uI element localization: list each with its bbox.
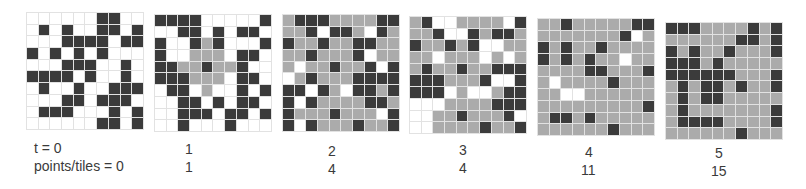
empty-cell <box>433 99 444 110</box>
tile-cell <box>760 46 771 57</box>
tile-cell <box>202 50 213 61</box>
tile-cell <box>422 52 433 63</box>
tile-cell <box>736 105 747 116</box>
point-cell <box>365 73 376 84</box>
point-cell <box>422 75 433 86</box>
tile-cell <box>585 42 596 53</box>
point-cell <box>178 85 189 96</box>
empty-cell <box>27 118 38 129</box>
point-cell <box>97 13 108 24</box>
tile-cell <box>643 89 654 100</box>
tile-cell <box>538 31 549 42</box>
empty-cell <box>260 27 271 38</box>
point-cell <box>515 64 526 75</box>
point-cell <box>504 64 515 75</box>
point-cell <box>132 118 143 129</box>
tile-cell <box>724 23 735 34</box>
tile-cell <box>678 128 689 139</box>
tile-grid-0 <box>26 12 144 130</box>
empty-cell <box>260 120 271 131</box>
tile-cell <box>573 66 584 77</box>
empty-cell <box>492 40 503 51</box>
tile-cell <box>596 113 607 124</box>
point-cell <box>202 109 213 120</box>
point-cell <box>713 117 724 128</box>
point-cell <box>377 97 388 108</box>
empty-cell <box>109 36 120 47</box>
tile-cell <box>620 77 631 88</box>
empty-cell <box>178 50 189 61</box>
point-cell <box>167 73 178 84</box>
point-cell <box>249 50 260 61</box>
tile-cell <box>538 77 549 88</box>
point-cell <box>678 23 689 34</box>
tile-cell <box>701 128 712 139</box>
tile-cell <box>365 109 376 120</box>
tile-cell <box>480 111 491 122</box>
point-cell <box>515 87 526 98</box>
empty-cell <box>167 120 178 131</box>
point-cell <box>713 58 724 69</box>
tile-cell <box>330 120 341 131</box>
point-cell <box>388 109 399 120</box>
empty-cell <box>445 87 456 98</box>
point-cell <box>306 27 317 38</box>
tile-cell <box>632 66 643 77</box>
point-cell <box>713 70 724 81</box>
tile-cell <box>713 35 724 46</box>
point-cell <box>283 85 294 96</box>
point-cell <box>457 64 468 75</box>
tile-cell <box>573 42 584 53</box>
tile-cell <box>736 93 747 104</box>
tile-cell <box>504 40 515 51</box>
tile-cell <box>341 109 352 120</box>
empty-cell <box>492 75 503 86</box>
empty-cell <box>39 36 50 47</box>
tile-cell <box>306 62 317 73</box>
empty-cell <box>109 60 120 71</box>
point-cell <box>585 54 596 65</box>
empty-cell <box>50 95 61 106</box>
point-cell <box>643 19 654 30</box>
tile-cell <box>620 101 631 112</box>
empty-cell <box>39 13 50 24</box>
point-cell <box>608 124 619 135</box>
tile-cell <box>748 81 759 92</box>
tile-cell <box>388 38 399 49</box>
point-cell <box>689 117 700 128</box>
point-cell <box>237 97 248 108</box>
empty-cell <box>27 60 38 71</box>
tile-cell <box>330 38 341 49</box>
point-cell <box>457 111 468 122</box>
tile-cell <box>365 120 376 131</box>
empty-cell <box>480 40 491 51</box>
empty-cell <box>85 83 96 94</box>
tile-cell <box>713 23 724 34</box>
tile-cell <box>504 122 515 133</box>
tile-cell <box>422 29 433 40</box>
point-cell <box>771 23 782 34</box>
point-cell <box>713 93 724 104</box>
tile-cell <box>689 105 700 116</box>
tile-cell <box>666 117 677 128</box>
point-cell <box>410 40 421 51</box>
tile-cell <box>760 81 771 92</box>
point-cell <box>701 93 712 104</box>
tile-cell <box>550 19 561 30</box>
tile-cell <box>608 42 619 53</box>
tile-cell <box>596 77 607 88</box>
tile-cell <box>585 89 596 100</box>
tile-cell <box>353 97 364 108</box>
tile-cell <box>724 81 735 92</box>
point-cell <box>213 27 224 38</box>
empty-cell <box>225 85 236 96</box>
empty-cell <box>249 109 260 120</box>
point-cell <box>701 70 712 81</box>
tile-cell <box>515 29 526 40</box>
empty-cell <box>155 97 166 108</box>
tile-cell <box>689 128 700 139</box>
tile-cell <box>388 97 399 108</box>
tile-cell <box>748 46 759 57</box>
point-cell <box>388 120 399 131</box>
tile-cell <box>550 66 561 77</box>
